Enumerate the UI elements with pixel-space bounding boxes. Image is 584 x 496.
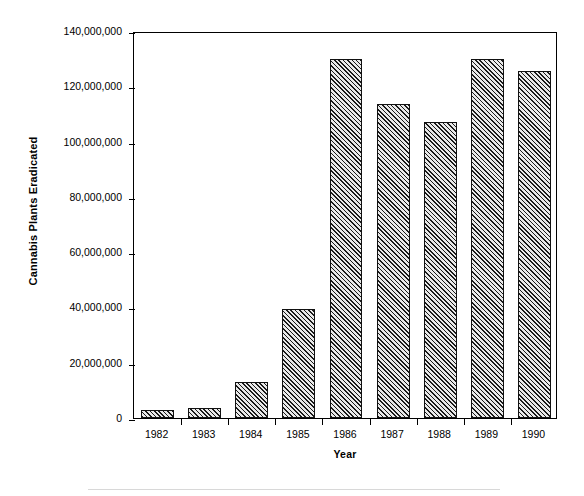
y-axis-tick-label: 120,000,000 [30, 81, 122, 91]
bar [330, 59, 363, 418]
y-axis-tick-labels: 020,000,00040,000,00060,000,00080,000,00… [30, 0, 122, 496]
y-axis-tick-mark [129, 88, 135, 89]
bar [188, 408, 221, 418]
bar [424, 122, 457, 418]
y-axis-tick-label: 40,000,000 [30, 302, 122, 312]
bar [518, 71, 551, 418]
x-axis-tick-mark [417, 418, 418, 425]
y-axis-tick-mark [129, 144, 135, 145]
x-axis-tick-label: 1985 [274, 428, 321, 440]
bar [471, 59, 504, 418]
bar-chart-figure: Cannabis Plants Eradicated 020,000,00040… [0, 0, 584, 496]
x-axis-tick-mark [322, 418, 323, 425]
bar [141, 410, 174, 418]
x-axis-tick-label: 1983 [180, 428, 227, 440]
bar [282, 309, 315, 418]
y-axis-tick-mark [129, 33, 135, 34]
x-axis-tick-mark [370, 418, 371, 425]
footer-divider [88, 489, 500, 490]
y-axis-tick-label: 140,000,000 [30, 26, 122, 36]
y-axis-tick-mark [129, 309, 135, 310]
x-axis-tick-label: 1984 [227, 428, 274, 440]
y-axis-tick-label: 80,000,000 [30, 192, 122, 202]
y-axis-tick-mark [129, 420, 135, 421]
bar [235, 382, 268, 418]
x-axis-tick-label: 1989 [463, 428, 510, 440]
x-axis-tick-label: 1982 [133, 428, 180, 440]
x-axis-tick-mark [464, 418, 465, 425]
x-axis-title: Year [133, 448, 557, 460]
y-axis-tick-mark [129, 365, 135, 366]
plot-area [133, 32, 557, 419]
y-axis-tick-mark [129, 199, 135, 200]
x-axis-tick-label: 1988 [416, 428, 463, 440]
x-axis-tick-mark [181, 418, 182, 425]
x-axis-tick-mark [511, 418, 512, 425]
y-axis-tick-mark [129, 254, 135, 255]
x-axis-tick-label: 1990 [510, 428, 557, 440]
y-axis-tick-label: 0 [30, 413, 122, 423]
x-axis-tick-mark [275, 418, 276, 425]
x-axis-tick-labels: 198219831984198519861987198819891990 [133, 428, 557, 444]
x-axis-tick-label: 1986 [321, 428, 368, 440]
y-axis-tick-label: 20,000,000 [30, 358, 122, 368]
y-axis-tick-label: 60,000,000 [30, 247, 122, 257]
y-axis-tick-label: 100,000,000 [30, 137, 122, 147]
bar [377, 104, 410, 418]
x-axis-tick-mark [228, 418, 229, 425]
x-axis-tick-label: 1987 [369, 428, 416, 440]
